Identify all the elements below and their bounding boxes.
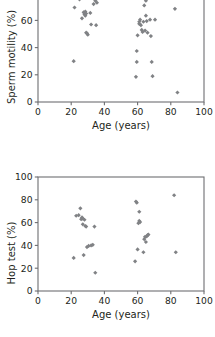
y-axis-tick-labels: 020406080100 <box>15 0 33 107</box>
data-point <box>133 259 137 263</box>
y-tick-label: 20 <box>21 263 33 274</box>
data-point <box>144 14 148 18</box>
y-axis-tick-labels: 020406080100 <box>15 171 33 296</box>
data-point <box>173 7 177 11</box>
data-point-group <box>72 193 178 275</box>
data-point <box>141 250 145 254</box>
data-point <box>82 253 86 257</box>
data-point <box>135 49 139 53</box>
data-point <box>80 16 84 20</box>
data-point <box>78 206 82 210</box>
data-point <box>136 247 140 251</box>
data-point <box>134 75 138 79</box>
data-point <box>136 33 140 37</box>
sperm-motility-scatter-plot: Sperm motility (%) 020406080100 02040608… <box>0 0 215 142</box>
x-axis-tick-labels: 020406080100 <box>35 106 213 117</box>
data-point <box>142 3 146 7</box>
y-tick-label: 100 <box>15 171 33 182</box>
plot-frame <box>38 177 204 291</box>
data-point <box>144 0 148 3</box>
y-tick-label: 20 <box>21 69 33 80</box>
x-tick-label: 40 <box>99 295 111 306</box>
data-point <box>153 18 157 22</box>
data-point-group <box>72 0 180 95</box>
chart-panel-sperm-motility: Sperm motility (%) 020406080100 02040608… <box>0 0 215 142</box>
y-axis-title-hop-test: Hop test (%) <box>6 221 17 284</box>
data-point <box>149 34 153 38</box>
x-tick-label: 20 <box>65 106 77 117</box>
y-tick-label: 0 <box>27 96 33 107</box>
data-point <box>141 20 145 24</box>
y-tick-label: 0 <box>27 285 33 296</box>
data-point <box>172 193 176 197</box>
x-tick-label: 80 <box>165 295 177 306</box>
x-tick-label: 40 <box>99 106 111 117</box>
y-tick-label: 80 <box>21 194 33 205</box>
x-axis-title-age: Age (years) <box>92 120 150 131</box>
data-point <box>72 59 76 63</box>
y-tick-label: 40 <box>21 240 33 251</box>
data-point <box>93 271 97 275</box>
axis-tick-marks <box>35 177 204 294</box>
y-axis-title-sperm-motility: Sperm motility (%) <box>6 10 17 104</box>
x-tick-label: 20 <box>65 295 77 306</box>
hop-test-scatter-plot: Hop test (%) 020406080100 020406080100 A… <box>0 167 215 337</box>
x-tick-label: 60 <box>132 106 144 117</box>
data-point <box>137 210 141 214</box>
data-point <box>150 74 154 78</box>
y-tick-label: 60 <box>21 15 33 26</box>
y-tick-label: 40 <box>21 42 33 53</box>
x-tick-label: 0 <box>35 106 41 117</box>
x-tick-label: 100 <box>195 106 213 117</box>
chart-panel-hop-test: Hop test (%) 020406080100 020406080100 A… <box>0 167 215 337</box>
data-point <box>77 0 81 1</box>
x-tick-label: 80 <box>165 106 177 117</box>
x-tick-label: 0 <box>35 295 41 306</box>
plot-frame <box>38 0 204 102</box>
y-axis-title-text: Sperm motility (%) <box>6 10 17 104</box>
data-point <box>92 224 96 228</box>
x-tick-label: 100 <box>195 295 213 306</box>
y-axis-title-text: Hop test (%) <box>6 221 17 284</box>
data-point <box>150 60 154 64</box>
data-point <box>88 11 92 15</box>
x-tick-label: 60 <box>132 295 144 306</box>
x-axis-title-age: Age (years) <box>92 309 150 320</box>
data-point <box>94 23 98 27</box>
data-point <box>175 90 179 94</box>
data-point <box>135 60 139 64</box>
data-point <box>89 22 93 26</box>
data-point <box>72 5 76 9</box>
axis-tick-marks <box>35 0 204 105</box>
x-axis-tick-labels: 020406080100 <box>35 295 213 306</box>
y-tick-label: 60 <box>21 217 33 228</box>
figure-page: Sperm motility (%) 020406080100 02040608… <box>0 0 215 337</box>
data-point <box>174 250 178 254</box>
data-point <box>72 256 76 260</box>
